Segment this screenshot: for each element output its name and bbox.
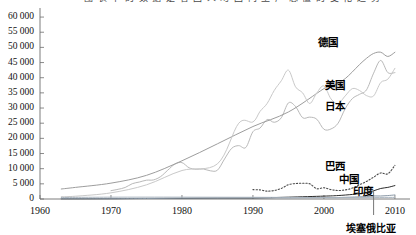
y-axis-tick-label: 30 000 [0,102,34,112]
series-label-1: 美国 [325,77,345,92]
x-axis-tick-label: 1960 [17,205,63,216]
x-axis-tick-label: 1990 [230,205,276,216]
y-axis-tick-label: 55 000 [0,26,34,36]
y-axis-tick-label: 35 000 [0,87,34,97]
x-axis-tick-label: 1970 [88,205,134,216]
series-label-0: 德国 [318,34,338,49]
y-axis-tick-label: 10 000 [0,163,34,173]
chart-canvas [0,0,416,235]
series-label-5: 印度 [353,183,373,198]
y-axis-tick-label: 0 [0,193,34,203]
x-axis-tick-label: 2010 [372,205,416,216]
y-axis-tick-label: 15 000 [0,148,34,158]
y-axis-tick-label: 25 000 [0,117,34,127]
series-label-2: 日本 [325,98,345,113]
y-axis-tick-label: 40 000 [0,72,34,82]
y-axis-tick-label: 5 000 [0,178,34,188]
y-axis-tick-label: 50 000 [0,41,34,51]
gdp-per-capita-line-chart: 图 表 中 的 数 据 是 各 国 人 均 国 内 生 产 总 值 的 变 化 … [0,0,416,235]
x-axis-tick-label: 1980 [159,205,205,216]
annotation-label-ethiopia: 埃塞俄比亚 [346,220,396,235]
y-axis-tick-label: 60 000 [0,11,34,21]
series-line-3 [253,165,395,191]
x-axis-tick-label: 2000 [301,205,347,216]
y-axis-tick-label: 45 000 [0,57,34,67]
y-axis-tick-label: 20 000 [0,132,34,142]
